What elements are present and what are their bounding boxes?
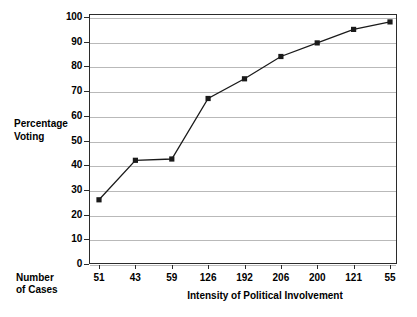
data-series [0, 0, 417, 317]
data-point-6 [315, 40, 320, 45]
data-point-3 [206, 96, 211, 101]
data-point-0 [96, 197, 101, 202]
data-point-4 [242, 76, 247, 81]
data-point-1 [133, 158, 138, 163]
chart-figure: 1009080706050403020100 Percentage Voting… [0, 0, 417, 317]
series-line [99, 22, 390, 200]
data-point-7 [351, 27, 356, 32]
data-point-5 [278, 54, 283, 59]
data-point-8 [387, 19, 392, 24]
data-point-2 [169, 156, 174, 161]
